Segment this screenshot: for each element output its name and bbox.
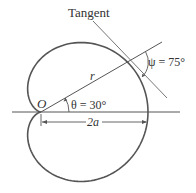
dimension-arrow-right [142,120,147,124]
psi-label: ψ = 75° [148,55,185,69]
cardioid-diagram: Tangent r O θ = 30° ψ = 75° 2a [0,0,196,193]
dimension-arrow-left [42,120,47,124]
radius-label: r [90,69,95,83]
diameter-label: 2a [87,115,99,129]
origin-label: O [37,96,47,111]
tangent-label: Tangent [68,5,110,20]
theta-label: θ = 30° [71,98,107,112]
